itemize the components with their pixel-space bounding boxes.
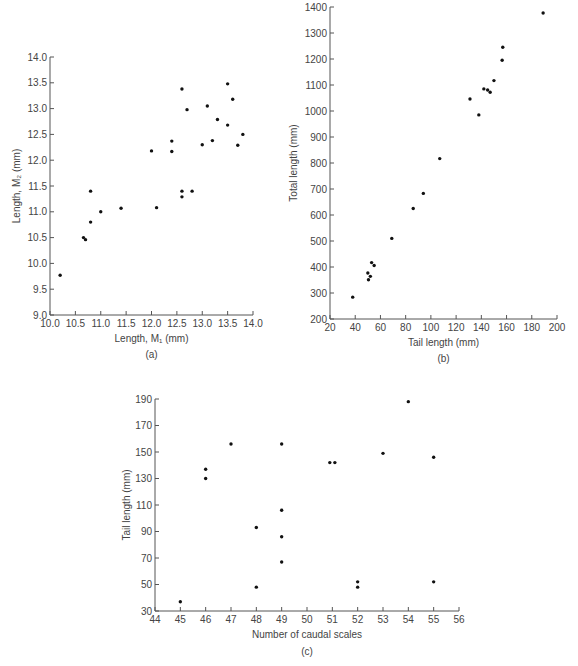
y-tick-label: 500 [310,236,327,247]
x-tick-label: 40 [350,322,362,333]
data-point [170,139,173,142]
data-point [201,143,204,146]
y-tick-label: 800 [310,158,327,169]
data-point [89,189,92,192]
x-tick-label: 54 [403,614,415,625]
y-tick-label: 190 [135,394,152,405]
x-tick-label: 120 [448,322,465,333]
x-tick-label: 48 [251,614,263,625]
chart-c-axes: 4445464748495051525354555630507090110130… [135,394,465,626]
y-tick-label: 10.0 [28,258,48,269]
x-tick-label: 51 [327,614,339,625]
chart-b-xlabel: Tail length (mm) [408,337,479,348]
y-tick-label: 1200 [305,54,328,65]
y-tick-label: 600 [310,210,327,221]
x-tick-label: 10.5 [66,318,86,329]
x-tick-label: 11.0 [91,318,110,329]
data-point [477,113,480,116]
x-tick-label: 55 [428,614,440,625]
y-tick-label: 1400 [305,2,328,13]
y-tick-label: 11.0 [28,206,47,217]
y-tick-label: 13.5 [28,77,48,88]
data-point [432,580,435,583]
data-point [229,442,232,445]
data-point [280,560,283,563]
data-point [58,274,61,277]
data-point [204,477,207,480]
x-tick-label: 56 [453,614,465,625]
data-point [216,118,219,121]
y-tick-label: 170 [135,420,152,431]
data-point [119,206,122,209]
data-point [180,189,183,192]
chart-b-ylabel: Total length (mm) [288,124,299,201]
data-point [206,104,209,107]
y-tick-label: 14.0 [28,52,48,63]
x-tick-label: 52 [352,614,364,625]
data-point [501,46,504,49]
y-tick-label: 400 [310,262,327,273]
data-point [356,585,359,588]
x-tick-label: 49 [276,614,288,625]
data-point [370,261,373,264]
x-tick-label: 45 [175,614,187,625]
x-tick-label: 47 [225,614,237,625]
y-tick-label: 12.0 [28,155,48,166]
y-tick-label: 700 [310,184,327,195]
data-point [280,535,283,538]
x-tick-label: 46 [200,614,212,625]
y-tick-label: 11.5 [28,181,47,192]
y-tick-label: 200 [310,314,327,325]
data-point [369,275,372,278]
data-point [372,264,375,267]
y-tick-label: 1300 [305,28,328,39]
data-point [500,59,503,62]
data-point [241,133,244,136]
data-point [255,526,258,529]
y-tick-label: 50 [141,579,153,590]
chart-a: 10.010.511.011.512.012.513.013.514.09.09… [11,52,263,361]
chart-a-panel-label: (a) [145,349,157,360]
data-point [468,97,471,100]
data-point [333,461,336,464]
data-point [422,192,425,195]
y-tick-label: 300 [310,288,327,299]
y-tick-label: 150 [135,447,152,458]
data-point [482,87,485,90]
data-point [204,468,207,471]
data-point [170,150,173,153]
chart-b: 2040608010012014016018020020030040050060… [288,2,566,365]
data-point [155,206,158,209]
data-point [488,91,491,94]
data-point [255,585,258,588]
data-point [412,207,415,210]
chart-b-axes: 2040608010012014016018020020030040050060… [305,2,566,334]
x-tick-label: 13.5 [218,318,238,329]
chart-b-panel-label: (b) [437,353,449,364]
data-point [541,11,544,14]
data-point [150,149,153,152]
data-point [180,195,183,198]
data-point [190,189,193,192]
y-tick-label: 130 [135,473,152,484]
y-tick-label: 9.5 [33,284,47,295]
x-tick-label: 12.0 [142,318,162,329]
chart-c-xlabel: Number of caudal scales [252,629,362,640]
data-point [407,400,410,403]
x-tick-label: 12.5 [167,318,187,329]
x-tick-label: 13.0 [193,318,213,329]
data-point [366,271,369,274]
data-point [211,139,214,142]
x-tick-label: 140 [473,322,490,333]
chart-a-ylabel: Length, M₂ (mm) [11,149,22,223]
x-tick-label: 100 [423,322,440,333]
x-tick-label: 53 [377,614,389,625]
chart-c-points [179,400,436,603]
x-tick-label: 160 [498,322,515,333]
data-point [226,82,229,85]
data-point [185,108,188,111]
y-tick-label: 900 [310,132,327,143]
data-point [231,98,234,101]
y-tick-label: 12.5 [28,129,48,140]
chart-b-points [351,11,545,299]
